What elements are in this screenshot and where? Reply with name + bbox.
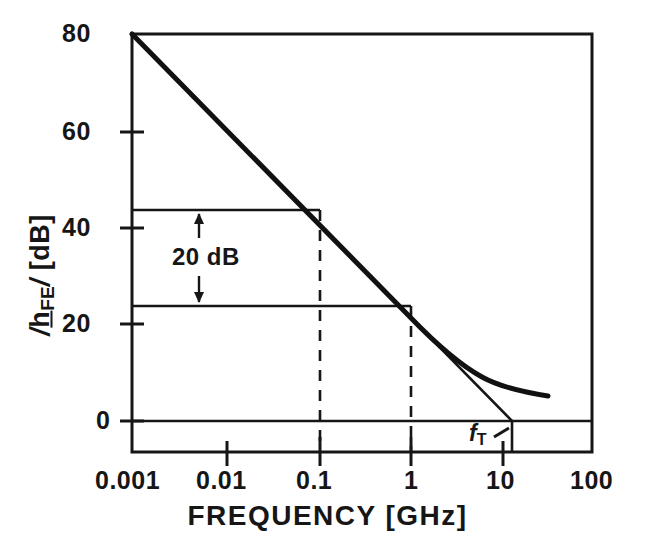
y-tick-label-60: 60 [62,117,91,146]
figure-container: 80 60 40 20 0 0.001 0.01 0.1 1 10 100 /h… [0,0,655,557]
x-tick-label-1: 1 [404,466,418,495]
x-tick-label-100: 100 [570,466,613,495]
x-tick-label-0p1: 0.1 [296,466,332,495]
y-axis-title-wrapper: /hFE/ [dB] [10,150,70,400]
x-tick-label-10: 10 [486,466,515,495]
x-axis-title: FREQUENCY [GHz] [0,500,655,532]
arrowhead-down [194,292,204,303]
measured-gain-curve [132,34,548,396]
x-tick-label-0p01: 0.01 [196,466,247,495]
y-axis-symbol: h [25,311,55,328]
y-axis-subscript: FE [37,286,58,310]
magnitude-bar-open: / [25,328,55,336]
ft-subscript: T [477,431,487,448]
magnitude-bar-close: / [25,278,55,286]
arrowhead-up [194,213,204,224]
y-axis-title: /hFE/ [dB] [25,214,56,335]
annotation-20db-label: 20 dB [172,243,240,271]
ft-symbol: f [469,420,477,446]
y-tick-label-0: 0 [96,406,110,435]
annotation-ft-label: fT [469,420,486,447]
x-tick-label-0p001: 0.001 [95,466,160,495]
ft-pointer-dash [494,428,509,437]
y-tick-label-80: 80 [62,19,91,48]
y-axis-unit: [dB] [25,214,55,270]
